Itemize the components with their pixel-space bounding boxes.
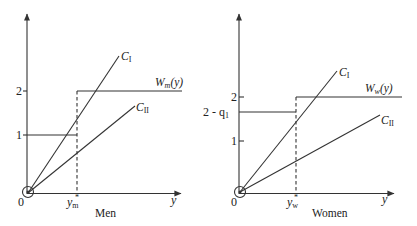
men-caption: Men — [95, 207, 116, 219]
women-c1-label: CI — [339, 66, 350, 80]
women-origin-dot — [239, 191, 242, 194]
women-panel: 2 1 2 - q1 Ww(y) CI CII 0 y yw * Women — [203, 14, 402, 219]
men-c1-label: CI — [121, 50, 132, 64]
women-origin-label: 0 — [231, 195, 237, 209]
men-x-axis-label: y — [170, 193, 177, 207]
men-tick-label-2: 2 — [16, 84, 22, 98]
women-x-axis-label: y — [381, 192, 388, 206]
men-threshold-star: * — [75, 193, 79, 202]
women-c2-label: CII — [381, 114, 394, 128]
wage-schedule-diagram: 2 1 Wm(y) CI CII 0 y ym * Men 2 1 2 - q1 — [0, 0, 417, 226]
men-wage-label: Wm(y) — [155, 76, 183, 90]
women-threshold-star: * — [294, 193, 298, 202]
men-origin-dot — [27, 191, 30, 194]
women-caption: Women — [312, 207, 348, 219]
men-c2-label: CII — [136, 101, 149, 115]
men-cost-line-c2 — [28, 106, 135, 193]
women-tick-label-1: 1 — [231, 134, 237, 148]
men-panel: 2 1 Wm(y) CI CII 0 y ym * Men — [16, 14, 183, 219]
women-wage-label: Ww(y) — [365, 82, 393, 96]
women-cost-line-c2 — [240, 115, 380, 192]
men-origin-label: 0 — [18, 195, 24, 209]
men-cost-line-c1 — [28, 56, 119, 193]
men-tick-label-1: 1 — [16, 128, 22, 142]
women-cost-line-c1 — [240, 71, 337, 192]
women-lower-wage-label: 2 - q1 — [203, 105, 229, 120]
women-tick-label-2: 2 — [231, 90, 237, 104]
